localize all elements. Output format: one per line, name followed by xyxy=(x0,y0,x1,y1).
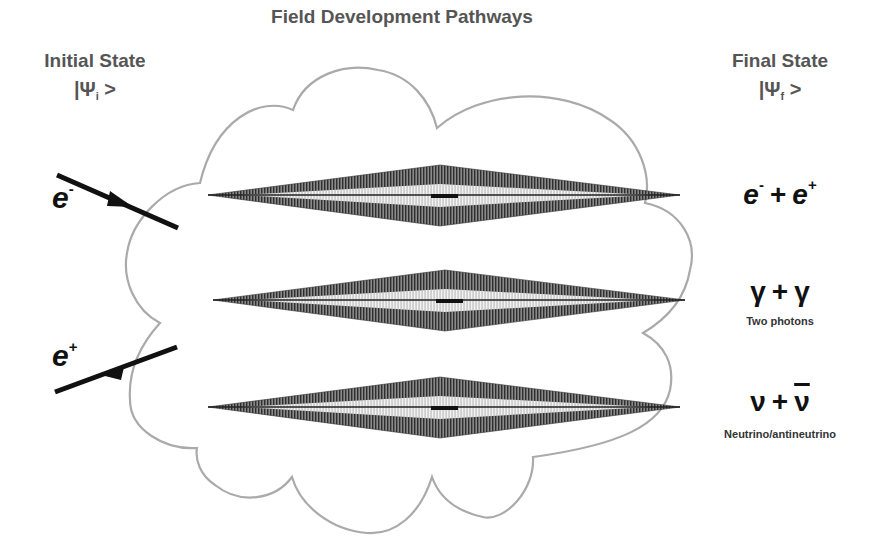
final-state-ket: |Ψf > xyxy=(705,78,855,102)
diagram-title: Field Development Pathways xyxy=(252,6,552,28)
final-left-particle: ν xyxy=(750,386,766,417)
final-neutrino-antineutrino: ν+ν xyxy=(720,386,840,418)
ket-close: > xyxy=(99,78,116,100)
final-two-photons: γ+γ xyxy=(720,276,840,308)
initial-state-ket: |Ψi > xyxy=(20,78,170,102)
pathway-spindle-3 xyxy=(208,377,680,438)
final-state-label: Final State xyxy=(705,50,855,72)
final-right-particle: γ xyxy=(794,276,810,307)
positron-label: e+ xyxy=(52,338,77,373)
final-right-particle: e xyxy=(792,179,808,210)
initial-state-label: Initial State xyxy=(20,50,170,72)
final-electron-positron: e-+e+ xyxy=(720,176,840,211)
electron-line xyxy=(57,175,178,228)
ket-psi: |Ψ xyxy=(759,78,781,100)
ket-close: > xyxy=(784,78,801,100)
caption-two-photons: Two photons xyxy=(720,315,840,327)
final-left-particle: e xyxy=(743,179,759,210)
pathway-spindle-2 xyxy=(213,270,685,331)
pathway-spindle-1 xyxy=(208,165,680,226)
final-left-particle: γ xyxy=(750,276,766,307)
caption-neutrino-antineutrino: Neutrino/antineutrino xyxy=(690,428,870,440)
electron-label: e- xyxy=(52,180,74,215)
ket-psi: |Ψ xyxy=(74,78,96,100)
arrow-icon xyxy=(107,191,133,207)
final-right-particle-antineutrino: ν xyxy=(794,386,810,417)
